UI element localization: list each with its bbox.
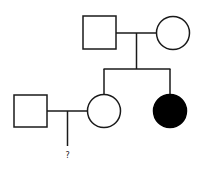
- gen2-spouse-male-square: [14, 95, 47, 127]
- pedigree-chart: ?: [0, 0, 199, 170]
- gen1-male-square: [83, 16, 116, 49]
- gen2-female-affected-circle: [154, 95, 187, 128]
- unknown-offspring-label: ?: [65, 151, 69, 160]
- gen1-female-circle: [157, 17, 190, 50]
- gen2-female-unaffected-circle: [88, 95, 121, 128]
